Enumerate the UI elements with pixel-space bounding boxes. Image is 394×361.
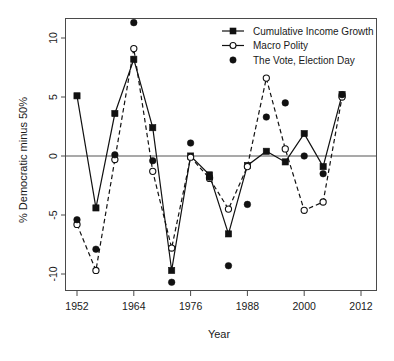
series-line-0 [77,59,342,270]
data-point [93,246,100,253]
election-vote-chart: 10 5 0 -5 -10 % Democratic minus 50% 195… [0,0,394,361]
legend-label: Macro Polity [253,40,308,51]
data-point [131,19,138,26]
series-markers-0 [74,56,345,273]
x-tick-label: 1964 [122,300,146,312]
series-0 [77,59,342,270]
y-tick-label: 10 [47,32,59,44]
data-point [112,110,118,116]
data-point [150,125,156,131]
open-circle-icon [230,43,236,49]
data-point [320,170,327,177]
data-point [150,168,156,174]
data-point [188,154,194,160]
data-point [301,130,307,136]
data-point [244,201,251,208]
data-point [93,267,99,273]
x-tick-label: 2012 [349,300,373,312]
x-axis-title: Year [208,328,231,340]
data-point [74,93,80,99]
dot-icon [230,57,236,63]
data-point [320,199,326,205]
legend-label: Cumulative Income Growth [253,26,374,37]
y-tick-label: -10 [47,266,59,281]
x-axis-ticks [77,291,361,297]
data-point [206,174,213,181]
data-point [225,206,231,212]
data-point [93,205,99,211]
x-tick-label: 1988 [236,300,260,312]
legend-entry-0: Cumulative Income Growth [222,26,374,37]
legend-entry-1: Macro Polity [222,40,308,51]
filled-square-icon [230,28,236,34]
legend-entry-2: The Vote, Election Day [230,55,355,66]
y-axis-title: % Democratic minus 50% [17,97,29,223]
data-point [225,231,231,237]
data-point [187,140,194,147]
data-point [301,207,307,213]
data-point [339,91,346,98]
data-point [282,100,289,107]
data-point [169,267,175,273]
data-point [149,157,156,164]
x-tick-label: 1952 [65,300,89,312]
data-point [263,75,269,81]
chart-legend: Cumulative Income GrowthMacro PolityThe … [222,26,374,66]
data-point [282,146,288,152]
data-point [282,159,288,165]
legend-label: The Vote, Election Day [253,55,355,66]
y-axis-ticks [61,38,66,274]
x-tick-label: 1976 [179,300,203,312]
data-point [263,148,269,154]
y-axis-tick-labels: 10 5 0 -5 -10 [47,32,59,282]
data-point [112,152,119,159]
data-point [320,164,326,170]
data-point [301,153,308,160]
data-point [168,279,175,286]
data-point [263,114,270,121]
series-markers-1 [74,46,345,274]
y-tick-label: 0 [47,153,59,159]
x-tick-label: 2000 [293,300,317,312]
data-point [131,56,137,62]
data-point [225,262,232,269]
data-point [74,216,81,223]
y-tick-label: 5 [47,94,59,100]
data-point [169,245,175,251]
data-point [244,164,250,170]
y-tick-label: -5 [47,210,59,219]
data-point [131,46,137,52]
x-axis-tick-labels: 1952 1964 1976 1988 2000 2012 [65,300,373,312]
